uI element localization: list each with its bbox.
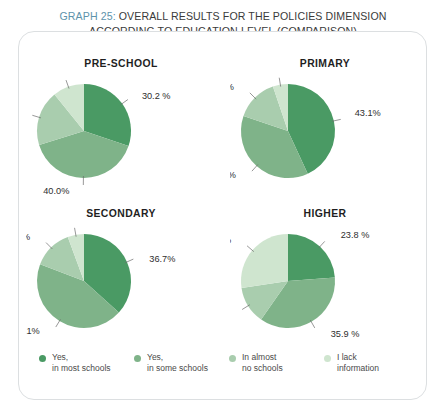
- chart-card: PRE-SCHOOL 30.2 %40.0%19.0 %10.8 % PRIMA…: [18, 31, 427, 400]
- leader-line: [319, 241, 325, 248]
- pie-slice-label: 13.6 %: [26, 232, 30, 242]
- legend-dot-icon: [324, 355, 331, 362]
- legend-label: I lackinformation: [337, 352, 379, 374]
- legend-label: Yes,in most schools: [52, 352, 111, 374]
- pie-chart-pre-school: PRE-SCHOOL 30.2 %40.0%19.0 %10.8 %: [19, 44, 223, 203]
- pie-slice-label: 35.9 %: [331, 329, 360, 339]
- leader-line: [252, 164, 258, 171]
- legend-item[interactable]: Yes,in most schools: [39, 352, 134, 374]
- pie-chart-secondary: SECONDARY 36.7%44.1%13.6 %5.6 %: [19, 194, 223, 353]
- pie-slice-label: 43.1%: [355, 108, 381, 118]
- pie-slice-label: 37.1%: [230, 170, 236, 180]
- pie-title: PRIMARY: [223, 58, 427, 69]
- pie-svg: 23.8 %35.9 %12.9 %27.4 %: [230, 226, 420, 346]
- pie-chart-grid: PRE-SCHOOL 30.2 %40.0%19.0 %10.8 % PRIMA…: [19, 32, 428, 350]
- legend-item[interactable]: I lackinformation: [324, 352, 419, 374]
- leader-line: [250, 93, 256, 99]
- legend-dot-icon: [39, 355, 46, 362]
- pie-slice-label: 14.6 %: [230, 82, 234, 92]
- pie-title: SECONDARY: [19, 208, 223, 219]
- title-line-1: GRAPH 25: OVERALL RESULTS FOR THE POLICI…: [0, 9, 446, 24]
- legend-dot-icon: [134, 355, 141, 362]
- leader-line: [310, 320, 314, 328]
- leader-line: [121, 100, 128, 105]
- leader-line: [242, 305, 250, 310]
- legend-dot-icon: [229, 355, 236, 362]
- pie-title: PRE-SCHOOL: [19, 58, 223, 69]
- pie-slice[interactable]: [288, 234, 335, 281]
- pie-svg: 43.1%37.1%14.6 %5.2 %: [230, 76, 420, 196]
- graph-number: GRAPH 25:: [59, 10, 115, 22]
- legend-label: Yes,in some schools: [147, 352, 208, 374]
- pie-slice[interactable]: [241, 234, 288, 288]
- chart-legend: Yes,in most schools Yes,in some schools …: [39, 352, 419, 390]
- pie-svg: 36.7%44.1%13.6 %5.6 %: [26, 226, 216, 346]
- legend-label: In almostno schools: [242, 352, 283, 374]
- legend-item[interactable]: In almostno schools: [229, 352, 324, 374]
- leader-line: [56, 319, 61, 327]
- leader-line: [247, 246, 254, 252]
- pie-title: HIGHER: [223, 208, 427, 219]
- pie-slice-label: 27.4 %: [230, 235, 231, 245]
- pie-slice-label: 44.1%: [26, 326, 40, 336]
- pie-graphic: 36.7%44.1%13.6 %5.6 %: [26, 226, 216, 350]
- pie-chart-primary: PRIMARY 43.1%37.1%14.6 %5.2 %: [223, 44, 427, 203]
- pie-graphic: 23.8 %35.9 %12.9 %27.4 %: [230, 226, 420, 350]
- title-line-1-text: OVERALL RESULTS FOR THE POLICIES DIMENSI…: [116, 10, 387, 22]
- pie-chart-higher: HIGHER 23.8 %35.9 %12.9 %27.4 %: [223, 194, 427, 353]
- legend-item[interactable]: Yes,in some schools: [134, 352, 229, 374]
- pie-slice-label: 30.2 %: [142, 91, 171, 101]
- pie-slice-label: 36.7%: [149, 254, 175, 264]
- leader-line: [46, 243, 52, 249]
- pie-graphic: 43.1%37.1%14.6 %5.2 %: [230, 76, 420, 200]
- pie-svg: 30.2 %40.0%19.0 %10.8 %: [26, 76, 216, 196]
- pie-slice-label: 23.8 %: [341, 230, 370, 240]
- pie-graphic: 30.2 %40.0%19.0 %10.8 %: [26, 76, 216, 200]
